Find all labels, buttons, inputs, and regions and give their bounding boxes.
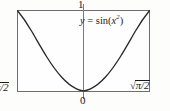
- sine-squared-figure: 1 0 π/2 √π/2 y = sin(x2): [0, 0, 170, 111]
- x-axis-left-tick-label: π/2: [0, 82, 9, 94]
- equation-equals: =: [85, 15, 96, 26]
- left-radical-bar: π/2: [0, 82, 9, 94]
- origin-label: 0: [80, 95, 86, 106]
- right-radical-bar: π/2: [135, 80, 150, 92]
- curve-equation-label: y = sin(x2): [80, 14, 123, 26]
- equation-close-paren: ): [120, 15, 124, 26]
- x-axis-right-tick-label: √π/2: [130, 80, 150, 92]
- y-axis-max-label: 1: [78, 0, 84, 10]
- equation-function: sin(: [96, 15, 112, 26]
